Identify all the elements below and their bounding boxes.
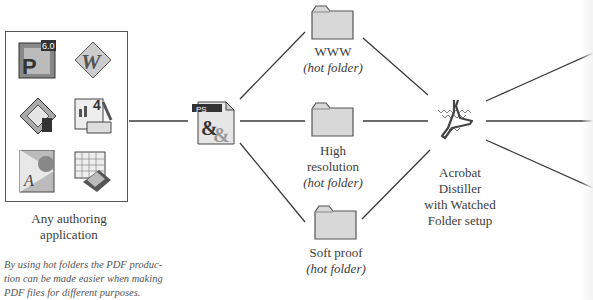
svg-text:A: A: [23, 172, 34, 189]
folder-high-name-line2: resolution: [307, 159, 359, 174]
distiller-label: Acrobat Distiller with Watched Folder se…: [414, 165, 506, 229]
distiller-label-line1: Acrobat: [439, 165, 481, 180]
folder-soft-proof-icon: [314, 204, 358, 240]
caption-line3: PDF files for different purposes.: [4, 287, 140, 298]
svg-text:P: P: [22, 54, 37, 79]
svg-text:PS: PS: [196, 105, 207, 114]
folder-www-name: WWW: [315, 44, 352, 59]
powerpoint-icon: P 6.0: [18, 40, 58, 80]
postscript-file-icon: PS & &: [192, 98, 236, 146]
folder-www-label: WWW (hot folder): [293, 44, 373, 76]
spreadsheet-icon: [73, 150, 113, 190]
word-icon: W: [73, 40, 113, 80]
authoring-apps-box: P 6.0 W 4: [5, 31, 128, 202]
drawing-app-icon: [18, 96, 58, 136]
distiller-label-line3: with Watched: [424, 197, 495, 212]
page-edge-shadow: [581, 0, 593, 300]
authoring-label-line1: Any authoring: [31, 211, 106, 226]
folder-www-icon: [311, 4, 355, 40]
caption-line1: By using hot folders the PDF produc-: [4, 259, 162, 270]
folder-high-name-line1: High: [320, 143, 346, 158]
folder-www-sub: (hot folder): [293, 60, 373, 76]
folder-soft-proof-sub: (hot folder): [293, 261, 379, 277]
acrobat-reader-icon: A: [18, 150, 58, 190]
folder-soft-proof-name: Soft proof: [309, 245, 362, 260]
figure-caption: By using hot folders the PDF produc- tio…: [4, 258, 184, 300]
distiller-label-line2: Distiller: [439, 181, 482, 196]
svg-text:&: &: [213, 124, 230, 146]
distiller-label-line4: Folder setup: [428, 213, 493, 228]
folder-high-sub: (hot folder): [293, 175, 373, 191]
authoring-label-line2: application: [40, 227, 98, 242]
authoring-label: Any authoring application: [8, 211, 130, 243]
svg-text:4: 4: [93, 97, 101, 113]
acrobat-distiller-icon: [434, 98, 480, 144]
svg-text:6.0: 6.0: [42, 41, 55, 51]
caption-line2: tion can be made easier when making: [4, 273, 163, 284]
folder-high-resolution-icon: [311, 101, 355, 137]
svg-text:W: W: [81, 49, 102, 74]
folder-high-resolution-label: High resolution (hot folder): [293, 143, 373, 191]
folder-soft-proof-label: Soft proof (hot folder): [293, 245, 379, 277]
publisher-app-icon: 4: [73, 94, 113, 134]
